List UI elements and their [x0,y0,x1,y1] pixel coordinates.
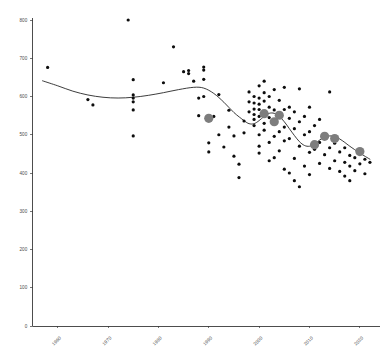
data-point [242,131,245,134]
data-point [268,106,271,109]
data-point [242,119,245,122]
data-point [162,81,165,84]
data-point [232,134,235,137]
data-point [283,139,286,142]
data-point [333,159,336,162]
data-point [363,172,366,175]
data-point [127,18,130,21]
y-tick-label: 400 [19,171,27,176]
data-point [273,156,276,159]
data-point [247,90,250,93]
data-point [273,135,276,138]
data-point [353,156,356,159]
data-point [187,72,190,75]
data-point [268,116,271,119]
data-point [197,96,200,99]
data-point [298,87,301,90]
period-mean-point [330,134,339,143]
data-point [283,108,286,111]
data-point [303,115,306,118]
data-point [298,120,301,123]
period-mean-point [310,140,319,149]
data-point [217,93,220,96]
data-point [258,145,261,148]
data-point [288,171,291,174]
data-point [187,69,190,72]
data-point [328,90,331,93]
data-point [202,65,205,68]
data-point [293,110,296,113]
data-point [273,88,276,91]
plot-background [0,0,386,357]
data-point [86,98,89,101]
data-point [293,179,296,182]
data-point [182,70,185,73]
data-point [46,66,49,69]
data-point [278,99,281,102]
data-point [338,170,341,173]
data-point [263,99,266,102]
data-point [268,141,271,144]
data-point [252,113,255,116]
data-point [318,118,321,121]
data-point [268,159,271,162]
data-point [247,110,250,113]
data-point [263,80,266,83]
data-point [252,124,255,127]
y-tick-label: 300 [19,209,27,214]
data-point [132,100,135,103]
data-point [247,100,250,103]
y-tick-label: 800 [19,18,27,23]
data-point [263,129,266,132]
data-point [358,162,361,165]
data-point [298,145,301,148]
data-point [258,108,261,111]
data-point [202,95,205,98]
data-point [258,96,261,99]
data-point [303,165,306,168]
data-point [363,158,366,161]
data-point [172,45,175,48]
data-point [227,109,230,112]
data-point [313,124,316,127]
data-point [303,133,306,136]
data-point [268,95,271,98]
data-point [252,101,255,104]
data-point [368,161,371,164]
data-point [207,150,210,153]
data-point [91,103,94,106]
data-point [227,126,230,129]
data-point [318,162,321,165]
y-tick-label: 500 [19,132,27,137]
data-point [343,174,346,177]
data-point [273,108,276,111]
y-tick-label: 600 [19,94,27,99]
data-point [132,93,135,96]
y-tick-label: 700 [19,56,27,61]
data-point [278,130,281,133]
data-point [288,137,291,140]
scatter-plot: 0100200300400500600700800 19601970198019… [0,0,386,357]
data-point [278,149,281,152]
data-point [348,179,351,182]
data-point [252,108,255,111]
period-mean-point [320,132,329,141]
data-point [308,106,311,109]
data-point [288,106,291,109]
data-point [328,167,331,170]
data-point [348,154,351,157]
data-point [192,80,195,83]
data-point [202,78,205,81]
data-point [283,168,286,171]
period-mean-point [355,147,364,156]
data-point [323,153,326,156]
data-point [258,152,261,155]
data-point [132,78,135,81]
data-point [283,126,286,129]
period-mean-point [204,114,213,123]
data-point [132,108,135,111]
data-point [308,173,311,176]
data-point [132,96,135,99]
data-point [207,141,210,144]
data-point [252,95,255,98]
